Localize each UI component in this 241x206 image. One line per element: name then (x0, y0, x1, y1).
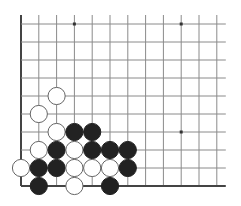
white-stone (84, 159, 101, 176)
black-stone (84, 141, 101, 158)
black-stone (119, 141, 136, 158)
black-stone (30, 159, 47, 176)
star-point (180, 131, 183, 134)
white-stone (12, 159, 29, 176)
black-stone (48, 141, 65, 158)
white-stone (101, 159, 118, 176)
star-point (180, 23, 183, 26)
black-stone (66, 123, 83, 140)
white-stone (48, 123, 65, 140)
black-stone (119, 159, 136, 176)
star-point (73, 23, 76, 26)
white-stone (48, 87, 65, 104)
white-stone (66, 159, 83, 176)
white-stone (30, 105, 47, 122)
black-stone (84, 123, 101, 140)
black-stone (101, 141, 118, 158)
black-stone (30, 177, 47, 194)
go-board (0, 0, 241, 206)
black-stone (101, 177, 118, 194)
white-stone (66, 177, 83, 194)
black-stone (48, 159, 65, 176)
white-stone (30, 141, 47, 158)
white-stone (66, 141, 83, 158)
